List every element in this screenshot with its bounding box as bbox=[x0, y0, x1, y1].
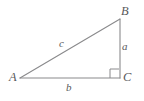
right-angle-marker bbox=[110, 69, 119, 78]
vertex-label-a: A bbox=[9, 71, 17, 84]
side-c-line bbox=[20, 19, 120, 78]
vertex-label-b: B bbox=[121, 5, 129, 18]
side-label-a: a bbox=[122, 41, 128, 52]
right-triangle-diagram: A B C a b c bbox=[0, 0, 144, 101]
side-label-c: c bbox=[59, 38, 64, 49]
vertex-label-c: C bbox=[123, 71, 131, 84]
side-label-b: b bbox=[66, 82, 72, 93]
